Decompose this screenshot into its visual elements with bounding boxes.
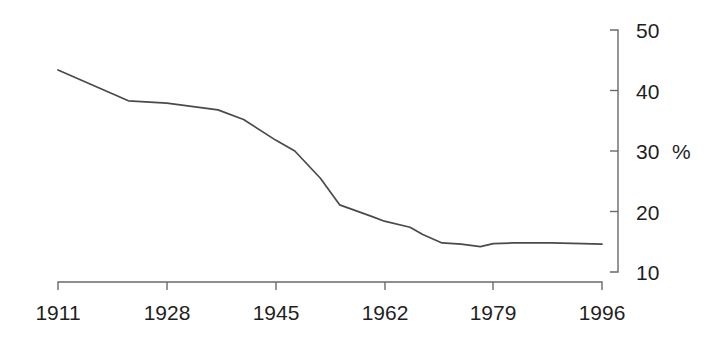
x-axis-line — [58, 282, 602, 290]
chart-canvas: 1911 1928 1945 1962 1979 1996 50 40 30 2… — [0, 0, 716, 342]
y-tick-label-30: 30 — [636, 140, 659, 163]
line-chart: 1911 1928 1945 1962 1979 1996 50 40 30 2… — [0, 0, 716, 342]
y-axis-unit-label: % — [672, 140, 691, 163]
x-tick-label-1979: 1979 — [470, 301, 517, 324]
y-tick-label-10: 10 — [636, 261, 659, 284]
x-tick-label-1945: 1945 — [253, 301, 300, 324]
y-tick-label-40: 40 — [636, 80, 659, 103]
y-axis-tick-labels: 50 40 30 20 10 — [636, 19, 659, 284]
x-axis — [58, 282, 602, 290]
y-axis — [610, 30, 618, 272]
y-tick-label-50: 50 — [636, 19, 659, 42]
x-tick-label-1911: 1911 — [35, 301, 80, 324]
y-tick-label-20: 20 — [636, 201, 659, 224]
x-tick-label-1996: 1996 — [579, 301, 626, 324]
data-series-line — [58, 70, 602, 247]
x-tick-label-1928: 1928 — [144, 301, 191, 324]
x-axis-tick-labels: 1911 1928 1945 1962 1979 1996 — [35, 301, 625, 324]
x-tick-label-1962: 1962 — [362, 301, 409, 324]
